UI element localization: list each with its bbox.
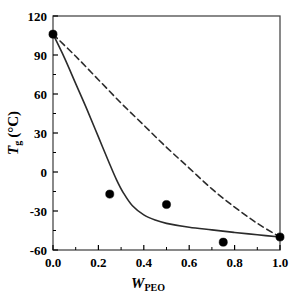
y-axis-title: Tg(°C) — [5, 111, 23, 155]
data-point-2 — [162, 200, 170, 208]
svg-text:Tg(°C): Tg(°C) — [5, 111, 23, 155]
y-tick-label-1: -30 — [30, 204, 47, 219]
y-tick-label-5: 90 — [34, 48, 47, 63]
y-tick-label-4: 60 — [34, 87, 47, 102]
y-axis-title-unit: (°C) — [5, 111, 22, 138]
x-tick-label-4: 0.8 — [226, 255, 243, 270]
y-tick-label-2: 0 — [41, 165, 48, 180]
data-point-3 — [219, 238, 227, 246]
x-tick-label-5: 1.0 — [272, 255, 288, 270]
figure-container: -60-300306090120 0.00.20.40.60.81.0 WPEO… — [0, 0, 297, 299]
data-point-4 — [276, 233, 284, 241]
glass-transition-chart: -60-300306090120 0.00.20.40.60.81.0 WPEO… — [0, 0, 297, 299]
x-tick-label-1: 0.2 — [90, 255, 106, 270]
data-point-0 — [49, 30, 57, 38]
x-axis-title-subscript: PEO — [144, 282, 165, 293]
x-tick-label-0: 0.0 — [45, 255, 61, 270]
data-point-1 — [106, 190, 114, 198]
x-tick-label-3: 0.6 — [181, 255, 198, 270]
y-axis-title-subscript: g — [12, 141, 23, 146]
y-tick-label-3: 30 — [34, 126, 47, 141]
y-tick-label-6: 120 — [28, 9, 48, 24]
x-tick-label-2: 0.4 — [136, 255, 153, 270]
